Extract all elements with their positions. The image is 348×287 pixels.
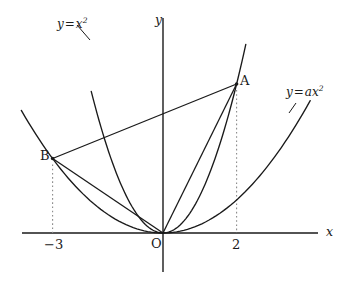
curve-label-lhs: y: [286, 85, 293, 99]
tick-label-minus-3: −3: [44, 238, 63, 251]
leader-y-equals-a-x-squared: [289, 103, 296, 113]
y-axis-label: y: [155, 14, 162, 27]
segment-bo: [53, 159, 163, 234]
curve-label-operator: =: [293, 85, 305, 99]
curve-label-rhs: x: [76, 17, 83, 31]
curve-label-y-equals-x-squared: y=x2: [57, 18, 87, 30]
curve-label-rhs: ax: [305, 85, 319, 99]
math-figure-canvas: y=x2 y=ax2 A B O x y −3 2: [0, 0, 348, 287]
curve-label-lhs: y: [57, 17, 64, 31]
point-b-marker: [51, 157, 55, 161]
curve-label-operator: =: [64, 17, 76, 31]
curve-label-exponent: 2: [319, 84, 324, 93]
parabola-y-equals-x-squared: [91, 44, 246, 233]
point-a-marker: [235, 82, 239, 86]
curve-label-y-equals-a-x-squared: y=ax2: [286, 86, 324, 98]
point-b-label: B: [40, 149, 50, 162]
origin-label: O: [151, 237, 162, 250]
point-a-label: A: [240, 74, 249, 87]
segment-ao: [163, 84, 237, 233]
x-axis-label: x: [326, 226, 333, 239]
curve-label-exponent: 2: [83, 16, 88, 25]
tick-label-2: 2: [232, 238, 240, 251]
segment-ab: [53, 84, 237, 159]
